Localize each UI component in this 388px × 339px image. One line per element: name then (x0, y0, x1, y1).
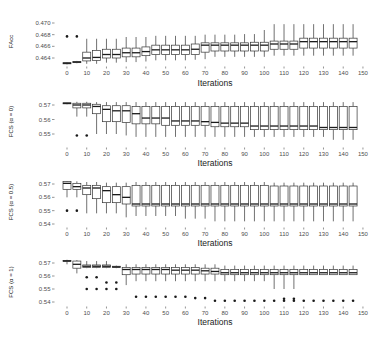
x-tick-label: 140 (338, 70, 349, 76)
x-tick-label: 150 (358, 151, 369, 157)
x-tick-label: 140 (338, 151, 349, 157)
x-tick-label: 120 (299, 231, 310, 237)
box-iter-50 (162, 102, 170, 137)
box-iter-105 (270, 24, 278, 56)
y-tick-label: 0.55 (39, 131, 51, 137)
x-tick-label: 20 (103, 151, 110, 157)
box-iter-45 (152, 102, 160, 137)
box-iter-20 (102, 39, 110, 63)
box-iter-140 (339, 102, 347, 140)
y-tick-label: 0.55 (39, 208, 51, 214)
box-iter-35 (132, 264, 140, 298)
outlier-point (312, 299, 315, 302)
box-iter-65 (191, 36, 199, 60)
outlier-point (85, 276, 88, 279)
box-iter-120 (300, 266, 308, 302)
box-iter-135 (329, 24, 337, 56)
x-tick-label: 70 (202, 151, 209, 157)
x-tick-label: 30 (123, 70, 130, 76)
box-iter-140 (339, 183, 347, 222)
box-iter-100 (260, 30, 268, 57)
box-iter-135 (329, 266, 337, 302)
outlier-point (332, 299, 335, 302)
y-tick-label: 0.54 (39, 221, 51, 227)
x-tick-label: 0 (65, 310, 69, 316)
x-tick-label: 40 (143, 310, 150, 316)
box-iter-110 (280, 266, 288, 302)
outlier-point (352, 299, 355, 302)
box-iter-145 (349, 266, 357, 302)
box-iter-35 (132, 102, 140, 137)
box-iter-105 (270, 266, 278, 302)
box-iter-25 (112, 102, 120, 134)
box-iter-130 (319, 24, 327, 56)
outlier-point (342, 299, 345, 302)
x-tick-label: 0 (65, 231, 69, 237)
box-iter-135 (329, 102, 337, 140)
box-iter-20 (102, 183, 110, 214)
panel-4: 0.540.550.560.57FCS (α = 1)0102030405060… (8, 260, 369, 327)
box-iter-115 (290, 266, 298, 302)
y-tick-label: 0.55 (39, 286, 51, 292)
x-tick-label: 10 (83, 151, 90, 157)
box-iter-5 (73, 102, 81, 137)
y-tick-label: 0.56 (39, 273, 51, 279)
y-tick-label: 0.56 (39, 194, 51, 200)
box-iter-90 (241, 266, 249, 302)
box-iter-115 (290, 102, 298, 137)
box-iter-50 (162, 264, 170, 298)
x-tick-label: 40 (143, 151, 150, 157)
box-iter-20 (102, 261, 110, 290)
box-iter-85 (231, 266, 239, 302)
box-iter-70 (201, 182, 209, 219)
box-iter-145 (349, 102, 357, 140)
box-iter-95 (250, 102, 258, 137)
outlier-point (253, 299, 256, 302)
y-tick-label: 0.57 (39, 260, 51, 266)
box-iter-30 (122, 264, 130, 285)
y-tick-label: 0.56 (39, 117, 51, 123)
x-tick-label: 60 (182, 231, 189, 237)
box-iter-80 (221, 102, 229, 137)
x-tick-label: 80 (221, 231, 228, 237)
box-iter-45 (152, 36, 160, 61)
outlier-point (184, 296, 187, 299)
x-tick-label: 50 (162, 231, 169, 237)
x-tick-label: 80 (221, 310, 228, 316)
x-tick-label: 150 (358, 310, 369, 316)
box-iter-15 (93, 39, 101, 64)
outlier-point (85, 288, 88, 291)
box-iter-60 (181, 182, 189, 219)
x-tick-label: 150 (358, 70, 369, 76)
box-iter-80 (221, 266, 229, 302)
outlier-point (283, 297, 286, 300)
outlier-point (76, 209, 79, 212)
outlier-point (154, 296, 157, 299)
x-tick-label: 140 (338, 310, 349, 316)
box-iter-40 (142, 264, 150, 298)
x-tick-label: 90 (241, 310, 248, 316)
y-axis-title: FCS (α = 0.5) (8, 184, 14, 220)
box-iter-25 (112, 266, 120, 291)
box-iter-60 (181, 264, 189, 298)
box-iter-105 (270, 102, 278, 137)
x-axis-title: Iterations (198, 238, 233, 248)
y-tick-label: 0.464 (35, 55, 51, 61)
outlier-point (224, 299, 227, 302)
box-iter-55 (172, 102, 180, 137)
box-iter-25 (112, 183, 120, 214)
x-tick-label: 130 (318, 231, 329, 237)
y-axis-title: FCS (α = 1) (8, 266, 14, 297)
x-tick-label: 150 (358, 231, 369, 237)
box-iter-10 (83, 182, 91, 213)
box-iter-65 (191, 264, 199, 299)
box-iter-75 (211, 102, 219, 137)
panel-2: 0.550.560.57FCS (α = 0)01020304050607080… (8, 102, 369, 168)
box-iter-65 (191, 102, 199, 137)
outlier-point (105, 281, 108, 284)
x-tick-label: 120 (299, 310, 310, 316)
x-tick-label: 80 (221, 151, 228, 157)
box-iter-10 (83, 39, 91, 64)
box-iter-80 (221, 35, 229, 57)
x-tick-label: 40 (143, 70, 150, 76)
